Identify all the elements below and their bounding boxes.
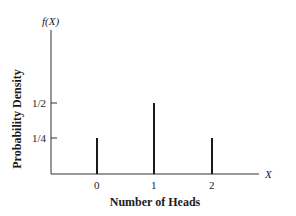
x-axis-title: Number of Heads: [110, 195, 200, 210]
x-axis-variable-label: X: [265, 168, 272, 180]
x-tick-label-2: 2: [209, 180, 215, 191]
x-tick-label-1: 1: [151, 180, 157, 191]
x-tick-label-0: 0: [94, 180, 100, 191]
y-axis-title: Probability Density: [10, 69, 25, 168]
y-axis-function-label: f(X): [42, 15, 59, 27]
y-tick-label-quarter: 1/4: [32, 133, 46, 144]
chart: f(X) X 1/2 1/4 0 1 2 Number of Heads Pro…: [0, 0, 296, 216]
y-tick-label-half: 1/2: [32, 98, 46, 109]
